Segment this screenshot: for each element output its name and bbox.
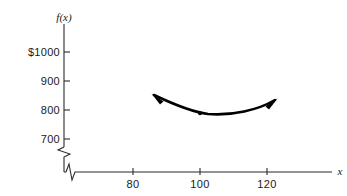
y-tick-label-800: 800: [41, 104, 60, 116]
y-axis-ticks: [64, 52, 70, 139]
x-tick-label-100: 100: [190, 178, 209, 190]
y-tick-label-700: 700: [41, 133, 60, 145]
y-tick-label-900: 900: [41, 75, 60, 87]
chart-plot-area: $1000 900 800 700 f(x) 80 100 120 x: [0, 0, 347, 196]
data-series-fx: [152, 94, 278, 116]
chart-figure: $1000 900 800 700 f(x) 80 100 120 x: [0, 0, 347, 196]
x-axis-title: x: [337, 165, 343, 177]
curve-minimum-marker: [198, 111, 202, 115]
y-axis-break-icon: [58, 147, 70, 172]
y-axis-title: f(x): [56, 11, 72, 24]
y-tick-label-1000: $1000: [28, 46, 60, 58]
x-tick-label-80: 80: [127, 178, 140, 190]
x-tick-label-120: 120: [257, 178, 276, 190]
cost-curve-path: [154, 95, 275, 114]
